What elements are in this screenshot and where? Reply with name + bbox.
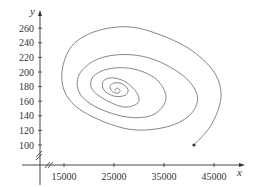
y-tick-label: 240 <box>19 37 34 48</box>
axes: 15000250003500045000 1001201401601802002… <box>19 5 245 185</box>
y-tick-label: 160 <box>19 96 34 107</box>
y-axis-arrow-icon <box>38 10 42 16</box>
y-tick-label: 120 <box>19 125 34 136</box>
x-ticks: 15000250003500045000 <box>52 163 227 182</box>
y-tick-label: 180 <box>19 81 34 92</box>
y-ticks: 100120140160180200220240260 <box>19 23 42 151</box>
y-tick-label: 220 <box>19 52 34 63</box>
trajectory-curve <box>62 27 221 145</box>
x-axis-label: x <box>236 166 242 178</box>
x-tick-label: 25000 <box>102 171 127 182</box>
start-point-marker <box>192 143 195 146</box>
y-axis-break-icon <box>36 151 42 160</box>
x-tick-label: 35000 <box>152 171 177 182</box>
y-tick-label: 260 <box>19 23 34 34</box>
y-axis-label: y <box>29 5 35 17</box>
x-tick-label: 15000 <box>52 171 77 182</box>
x-tick-label: 45000 <box>202 171 227 182</box>
y-tick-label: 140 <box>19 110 34 121</box>
y-tick-label: 200 <box>19 67 34 78</box>
y-tick-label: 100 <box>19 140 34 151</box>
phase-plane-chart: 15000250003500045000 1001201401601802002… <box>0 0 255 187</box>
